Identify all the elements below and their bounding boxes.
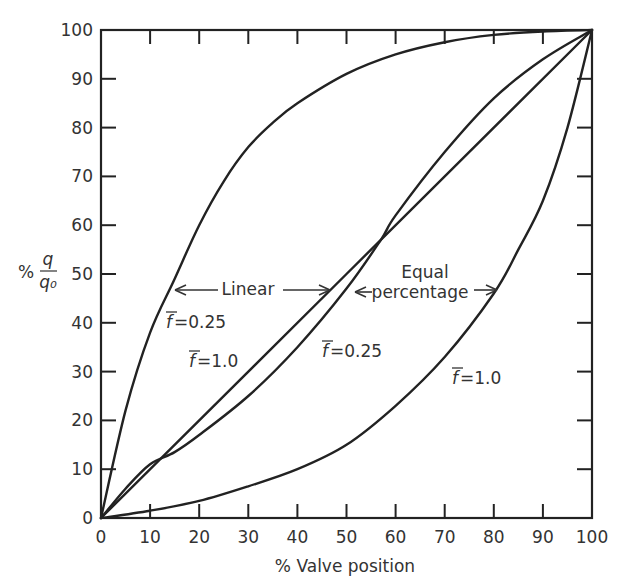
valve-characteristic-chart: 0102030405060708090100010203040506070809… (0, 0, 621, 587)
y-tick-label: 20 (71, 410, 93, 430)
y-axis-label-numerator: q (43, 249, 54, 269)
y-axis-label: % q q₀ (18, 249, 57, 292)
equal-label: Equal (401, 262, 448, 282)
x-tick-label: 50 (336, 527, 358, 547)
linear-label: Linear (222, 279, 275, 299)
x-tick-label: 60 (385, 527, 407, 547)
y-tick-label: 40 (71, 313, 93, 333)
y-axis-label-denominator: q₀ (39, 272, 57, 292)
f-value: =1.0 (460, 368, 501, 388)
x-axis-label: % Valve position (275, 556, 415, 576)
percentage-label: percentage (372, 282, 469, 302)
y-tick-label: 80 (71, 118, 93, 138)
y-tick-label: 30 (71, 362, 93, 382)
x-tick-label: 70 (434, 527, 456, 547)
x-tick-label: 40 (287, 527, 309, 547)
x-tick-label: 0 (96, 527, 107, 547)
equal-percentage-annotation: Equal percentage (355, 262, 497, 302)
linear-annotation: Linear (175, 279, 330, 299)
x-tick-label: 80 (483, 527, 505, 547)
y-tick-label: 90 (71, 69, 93, 89)
y-tick-label: 100 (61, 20, 93, 40)
curves-group (101, 30, 592, 518)
label-eq-f025: f =0.25 (322, 341, 382, 361)
y-tick-label: 60 (71, 215, 93, 235)
y-tick-label: 70 (71, 166, 93, 186)
f-value: =0.25 (330, 341, 382, 361)
y-axis-label-percent: % (18, 262, 34, 282)
x-tick-label: 100 (576, 527, 608, 547)
f-value: =0.25 (174, 312, 226, 332)
y-tick-label: 10 (71, 459, 93, 479)
x-tick-label: 10 (139, 527, 161, 547)
y-tick-label: 0 (82, 508, 93, 528)
x-tick-label: 20 (188, 527, 210, 547)
tick-labels-group: 0102030405060708090100010203040506070809… (61, 20, 609, 547)
x-tick-label: 90 (532, 527, 554, 547)
label-linear-f025: f =0.25 (166, 312, 226, 332)
y-tick-label: 50 (71, 264, 93, 284)
x-tick-label: 30 (237, 527, 259, 547)
label-linear-f10: f =1.0 (189, 351, 238, 371)
label-eq-f10: f =1.0 (452, 368, 501, 388)
f-value: =1.0 (197, 351, 238, 371)
